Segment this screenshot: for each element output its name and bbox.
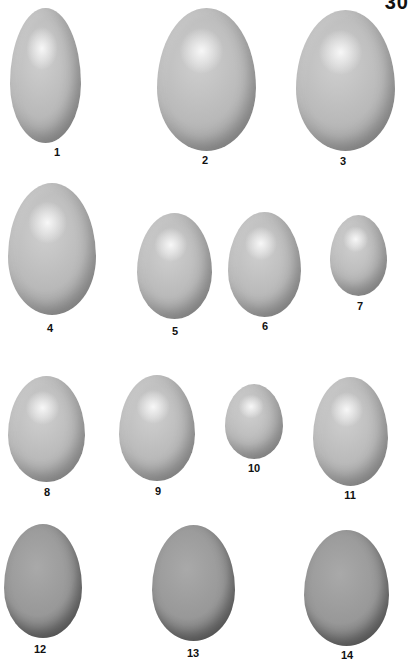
egg-number-label: 13 [187, 647, 199, 659]
egg-illustration [4, 524, 82, 638]
egg-number-label: 10 [248, 462, 260, 474]
egg-number-label: 2 [202, 154, 208, 166]
egg-illustration [152, 525, 235, 641]
egg-number-label: 1 [54, 146, 60, 158]
egg-illustration [8, 376, 85, 482]
egg-number-label: 11 [344, 489, 356, 501]
egg-number-label: 14 [341, 649, 353, 661]
egg-illustration [296, 10, 395, 151]
egg-illustration [119, 375, 195, 481]
egg-illustration [228, 212, 301, 317]
egg-illustration [8, 183, 96, 315]
egg-number-label: 7 [357, 300, 363, 312]
egg-number-label: 12 [34, 643, 46, 655]
egg-illustration [10, 8, 81, 143]
egg-illustration [157, 8, 256, 151]
egg-illustration [313, 377, 388, 486]
egg-number-label: 3 [340, 155, 346, 167]
egg-number-label: 6 [262, 320, 268, 332]
egg-number-label: 4 [47, 322, 53, 334]
egg-illustration [225, 384, 283, 459]
egg-number-label: 8 [44, 486, 50, 498]
egg-illustration [304, 530, 389, 646]
egg-illustration [137, 213, 212, 319]
page-number: 30 [385, 0, 409, 14]
egg-number-label: 9 [155, 485, 161, 497]
egg-number-label: 5 [172, 325, 178, 337]
egg-illustration [330, 215, 387, 296]
